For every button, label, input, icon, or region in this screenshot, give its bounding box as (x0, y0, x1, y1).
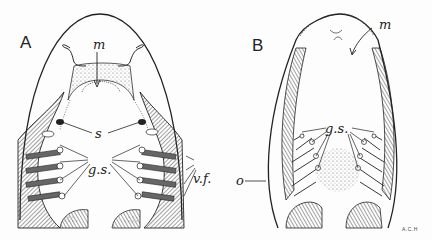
diagram-canvas (0, 0, 432, 240)
panel-label-b: B (252, 37, 263, 54)
annotation-mouth-a: m (93, 38, 105, 51)
annotation-mouth-b: m (379, 18, 391, 31)
panel-a-drawing (18, 14, 196, 228)
annotation-s: s (95, 127, 102, 140)
annotation-o: o (236, 174, 244, 187)
annotation-gill-slits-b: g.s. (325, 122, 348, 135)
panel-label-a: A (20, 34, 31, 51)
artist-signature: A.C.H (402, 226, 418, 232)
annotation-gill-slits-a: g.s. (88, 163, 111, 176)
panel-b-drawing (245, 14, 397, 228)
annotation-velar-folds: v.f. (193, 172, 211, 185)
